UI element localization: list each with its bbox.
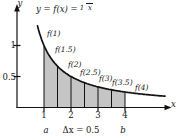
y-tick-label-0.5: 0.5 xyxy=(2,72,16,81)
x-tick-label-3: 3 xyxy=(95,111,100,120)
equation-lhs: y = f(x) = xyxy=(36,5,78,14)
curve-label-f2.5: f(2.5) xyxy=(80,69,101,77)
curve-label-f1: f(1) xyxy=(47,30,60,38)
interval-a-label: a xyxy=(43,126,48,135)
y-axis-label: y xyxy=(18,0,23,8)
riemann-sum-figure: y = f(x) = 1 x y x 1 0.5 1 2 3 4 f(1) f(… xyxy=(0,0,179,139)
x-tick-label-1: 1 xyxy=(41,111,46,120)
fraction-denominator: x xyxy=(86,3,93,12)
interval-b-label: b xyxy=(120,126,125,135)
x-tick-label-4: 4 xyxy=(122,111,127,120)
x-tick-label-2: 2 xyxy=(68,111,73,120)
curve-label-f3: f(3) xyxy=(99,75,112,83)
equation-fraction: 1 x xyxy=(80,5,94,13)
curve-label-f1.5: f(1.5) xyxy=(55,46,76,54)
curve-label-f4: f(4) xyxy=(135,84,148,92)
x-axis-label: x xyxy=(171,100,176,109)
fraction-numerator: 1 xyxy=(80,4,84,12)
curve-label-f3.5: f(3.5) xyxy=(112,79,133,87)
equation: y = f(x) = 1 x xyxy=(36,5,93,14)
y-tick-label-1: 1 xyxy=(11,41,16,50)
delta-x-label: Δx = 0.5 xyxy=(63,126,100,135)
